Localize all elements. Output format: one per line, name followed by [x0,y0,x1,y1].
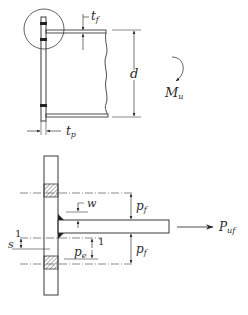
label-pf-top: pf [136,199,149,214]
detail-callout-circle [24,9,64,49]
beam-flange-detail [58,220,169,233]
beam-break-line [105,33,107,114]
bolt-bottom [40,104,47,107]
label-tp: tp [66,124,76,139]
moment-arrow [172,57,183,81]
label-w: w [87,197,97,210]
weld-top [58,214,64,220]
label-one-right: 1 [98,236,104,247]
label-mu: Mu [164,85,183,101]
beam-top-flange [46,30,106,33]
label-one-left: 1 [15,228,21,239]
top-elevation-view: tf d Mu tp [24,9,183,139]
label-pf-bottom: pf [136,242,149,257]
label-pe: pe [74,245,87,260]
bolt-hatch-bottom [44,256,58,269]
end-plate-detail [44,156,58,295]
beam-bottom-flange [46,114,108,117]
bottom-detail-view: w pf pf pe 1 1 s Puf [8,156,237,295]
label-puf: Puf [218,220,237,235]
label-tf: tf [91,9,101,24]
label-s: s [8,238,14,251]
bolt-top-2 [40,38,47,41]
label-d: d [130,66,138,81]
bolt-top-1 [40,22,47,25]
end-plate-connection-diagram: tf d Mu tp [0,0,248,315]
bolt-hatch-top [44,184,58,197]
